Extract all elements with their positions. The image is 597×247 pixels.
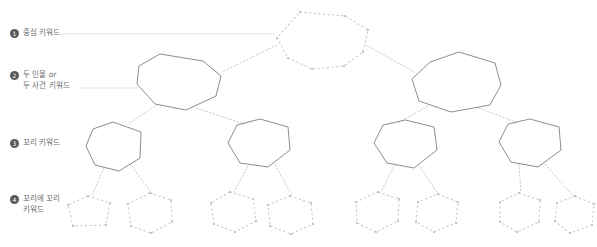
node-vertex-leaf-4-5 [269,225,271,227]
node-vertex-leaf-8-5 [554,220,556,222]
node-leaf-2[interactable] [128,193,172,233]
node-vertex-leaf-2-2 [170,199,172,201]
node-vertex-leaf-6-3 [455,222,457,224]
node-leaf-7[interactable] [500,193,540,232]
node-vertex-leaf-4-4 [290,233,292,235]
node-vertex-leaf-4-6 [267,204,269,206]
legend-bullet-icon-1: 1 [10,29,19,38]
node-vertex-leaf-2-6 [127,203,129,205]
node-leaf-8[interactable] [555,196,594,233]
legend-label-1: 중심 키워드 [23,28,60,39]
connector-lines-group [92,45,573,196]
connector-tail-1-to-leaf-2 [130,164,152,193]
node-vertex-leaf-7-3 [538,221,540,223]
node-vertex-leaf-8-1 [574,195,576,197]
nodes-group [67,11,595,235]
node-vertex-leaf-6-6 [417,201,419,203]
legend-bullet-icon-2: 2 [10,71,19,80]
node-vertex-leaf-7-2 [539,199,541,201]
node-vertex-leaf-3-6 [210,202,212,204]
node-vertex-leaf-3-3 [255,220,257,222]
node-vertex-leaf-7-5 [499,221,501,223]
connector-tail-2-to-leaf-4 [275,165,292,195]
legend-item-2[interactable]: 2 두 인물 or 두 사건 키워드 [10,70,70,91]
legend-item-4[interactable]: 4 꼬리에 꼬리 키워드 [10,194,60,215]
node-vertex-leaf-2-5 [130,225,132,227]
node-vertex-leaf-1-3 [105,224,107,226]
node-vertex-leaf-3-2 [252,198,254,200]
node-vertex-leaf-8-2 [593,203,595,205]
node-vertex-leaf-5-3 [397,220,399,222]
node-vertex-leaf-7-4 [516,231,518,233]
node-leaf-3[interactable] [211,192,256,232]
node-leaf-6[interactable] [416,194,458,232]
node-vertex-leaf-3-1 [229,191,231,193]
node-vertex-leaf-1-4 [72,225,74,227]
connector-tail-1-to-leaf-1 [92,168,104,195]
node-vertex-leaf-4-2 [310,202,312,204]
legend-bullet-icon-4: 4 [10,195,19,204]
node-vertex-root-2 [344,15,346,17]
node-vertex-leaf-5-6 [355,201,357,203]
diagram-canvas: 1 중심 키워드 2 두 인물 or 두 사건 키워드 3 꼬리 키워드 4 꼬… [0,0,597,247]
node-vertex-leaf-4-1 [289,195,291,197]
node-vertex-leaf-5-2 [398,198,400,200]
keyword-tree-diagram [0,0,597,247]
connector-branch-left-to-tail-2 [196,108,244,124]
node-vertex-leaf-6-4 [433,231,435,233]
node-vertex-root-5 [343,65,345,67]
node-vertex-root-6 [311,68,313,70]
connector-tail-3-to-leaf-6 [420,167,438,194]
node-tail-4[interactable] [499,119,561,167]
node-root[interactable] [277,12,368,69]
node-vertex-root-1 [299,11,301,13]
legend-item-1[interactable]: 1 중심 키워드 [10,28,60,39]
node-vertex-leaf-2-1 [149,192,151,194]
connector-branch-left-to-tail-1 [128,106,155,124]
node-vertex-leaf-1-5 [67,204,69,206]
node-vertex-leaf-2-4 [150,232,152,234]
node-vertex-leaf-5-4 [375,231,377,233]
node-vertex-leaf-3-4 [234,231,236,233]
node-vertex-leaf-5-1 [377,191,379,193]
legend-label-2: 두 인물 or 두 사건 키워드 [23,70,70,91]
connector-root-to-branch-left [222,45,277,72]
node-leaf-4[interactable] [268,196,313,234]
node-tail-1[interactable] [86,122,141,171]
node-branch-right[interactable] [412,52,501,112]
connector-tail-3-to-leaf-5 [381,166,394,192]
node-vertex-leaf-6-1 [437,193,439,195]
node-vertex-leaf-8-3 [591,224,593,226]
node-vertex-leaf-6-2 [457,201,459,203]
node-vertex-root-3 [367,29,369,31]
legend-item-3[interactable]: 3 꼬리 키워드 [10,138,60,149]
node-vertex-leaf-5-5 [356,222,358,224]
node-vertex-root-7 [287,57,289,59]
connector-tail-4-to-leaf-7 [519,164,521,192]
legend-bullet-icon-3: 3 [10,139,19,148]
legend-label-3: 꼬리 키워드 [23,138,60,149]
node-vertex-root-8 [276,37,278,39]
node-vertex-leaf-7-1 [518,192,520,194]
node-tail-2[interactable] [228,119,290,167]
node-vertex-leaf-3-5 [213,223,215,225]
node-vertex-leaf-8-6 [556,202,558,204]
node-vertex-leaf-1-2 [109,202,111,204]
node-vertex-leaf-8-4 [569,232,571,234]
node-vertex-leaf-6-5 [415,221,417,223]
node-vertex-leaf-7-6 [499,201,501,203]
connector-tail-2-to-leaf-3 [234,166,248,192]
node-branch-left[interactable] [137,54,221,110]
node-leaf-5[interactable] [356,192,399,232]
node-vertex-leaf-2-3 [171,221,173,223]
leader-lines-group [60,34,274,88]
node-leaf-1[interactable] [68,196,110,226]
node-vertex-root-4 [362,51,364,53]
node-vertex-leaf-4-3 [312,223,314,225]
connector-root-to-branch-right [366,45,414,72]
node-vertex-leaf-1-1 [87,195,89,197]
node-tail-3[interactable] [374,120,437,168]
connector-tail-4-to-leaf-8 [545,164,573,196]
connector-branch-right-to-tail-4 [479,108,518,123]
legend-label-4: 꼬리에 꼬리 키워드 [23,194,60,215]
